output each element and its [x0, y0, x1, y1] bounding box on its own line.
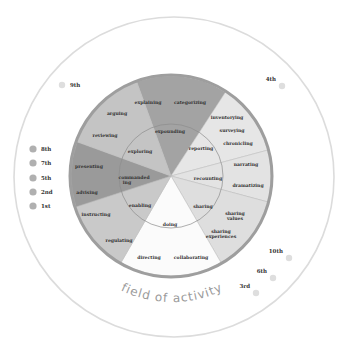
marker-dot-icon — [29, 145, 36, 152]
marker-2nd: 2nd — [29, 188, 52, 195]
marker-label: 7th — [41, 160, 51, 166]
marker-3rd: 3rd — [239, 283, 259, 296]
marker-dot-icon — [279, 83, 285, 89]
marker-dot-icon — [29, 159, 36, 166]
wheel-sectors — [71, 76, 271, 276]
activity-wheel-diagram: explaining categorizing expounding inven… — [0, 0, 341, 352]
marker-label: 8th — [41, 146, 51, 152]
marker-label: 5th — [41, 175, 51, 181]
label-sharing-values-2: values — [226, 216, 244, 221]
marker-label: 4th — [266, 76, 276, 82]
marker-dot-icon — [286, 255, 292, 261]
marker-6th: 6th — [257, 268, 277, 281]
marker-label: 1st — [41, 203, 51, 209]
marker-1st: 1st — [29, 202, 51, 209]
marker-10th: 10th — [269, 248, 292, 261]
marker-dot-icon — [59, 82, 65, 88]
marker-label: 6th — [257, 268, 267, 274]
marker-label: 3rd — [239, 283, 250, 289]
field-of-activity-title: field of activity — [119, 280, 225, 305]
marker-5th: 5th — [29, 174, 51, 181]
marker-label: 10th — [269, 248, 283, 254]
marker-9th: 9th — [59, 82, 81, 88]
marker-dot-icon — [253, 290, 259, 296]
marker-dot-icon — [29, 188, 36, 195]
marker-4th: 4th — [266, 76, 286, 89]
marker-label: 2nd — [41, 189, 53, 195]
marker-dot-icon — [270, 275, 276, 281]
marker-dot-icon — [29, 202, 36, 209]
label-sharing-exp-2: experiences — [206, 234, 237, 239]
field-of-activity-text: field of activity — [119, 280, 225, 305]
marker-label: 9th — [70, 82, 80, 88]
marker-dot-icon — [29, 174, 36, 181]
marker-8th: 8th — [29, 145, 51, 152]
marker-7th: 7th — [29, 159, 51, 166]
